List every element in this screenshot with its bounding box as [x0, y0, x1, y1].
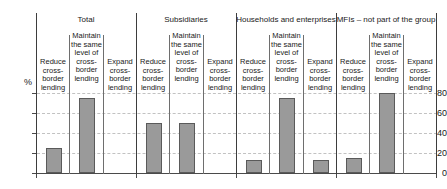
column-label-g0-maintain: Maintain the same level of cross-border …: [71, 32, 102, 83]
column-label-g3-expand: Expand cross-border lending: [405, 58, 435, 92]
column-label-g0-expand: Expand cross-border lending: [105, 58, 135, 92]
bar-mfis-maintain: [379, 93, 395, 173]
bar-total-maintain: [79, 98, 95, 173]
group-separator-2: [236, 13, 237, 174]
column-label-g1-maintain: Maintain the same level of cross-border …: [171, 32, 202, 83]
column-label-g3-reduce: Reduce cross-border lending: [338, 58, 368, 92]
bar-households-expand: [313, 160, 329, 173]
chart-container: % 80 60 40 20 0 Total Subsidiaries House…: [0, 0, 447, 189]
bar-households-maintain: [279, 98, 295, 173]
bar-total-reduce: [46, 148, 62, 173]
x-tick-0: [36, 174, 37, 178]
column-separator-g3-c2: [403, 35, 404, 174]
bar-households-reduce: [246, 160, 262, 173]
column-separator-g1-c2: [203, 35, 204, 174]
group-separator-1: [136, 13, 137, 174]
column-label-g1-expand: Expand cross-border lending: [205, 58, 235, 92]
bar-subsidiaries-reduce: [146, 123, 162, 173]
group-separator-3: [336, 13, 337, 174]
group-title-total: Total: [36, 15, 136, 24]
x-tick-2: [236, 174, 237, 178]
group-title-households-and-enterprises: Households and enterprises: [236, 15, 336, 24]
column-label-g0-reduce: Reduce cross-border lending: [38, 58, 68, 92]
group-separator-0: [36, 13, 37, 174]
column-label-g3-maintain: Maintain the same level of cross-border …: [371, 32, 402, 83]
plot-area: Total Subsidiaries Households and enterp…: [36, 13, 437, 174]
bar-subsidiaries-maintain: [179, 123, 195, 173]
group-title-mfis: MFIs – not part of the group: [336, 15, 436, 24]
bar-mfis-reduce: [346, 158, 362, 173]
column-separator-g0-c2: [103, 35, 104, 174]
column-label-g2-expand: Expand cross-border lending: [305, 58, 335, 92]
column-separator-g0-c1: [69, 35, 70, 174]
column-separator-g1-c1: [169, 35, 170, 174]
column-label-g1-reduce: Reduce cross-border lending: [138, 58, 168, 92]
x-tick-1: [136, 174, 137, 178]
x-tick-3: [336, 174, 337, 178]
column-separator-g2-c2: [303, 35, 304, 174]
group-separator-4: [436, 13, 437, 174]
y-axis-unit-label: %: [6, 78, 32, 87]
column-separator-g2-c1: [269, 35, 270, 174]
group-title-subsidiaries: Subsidiaries: [136, 15, 236, 24]
column-label-g2-maintain: Maintain the same level of cross-border …: [271, 32, 302, 83]
column-separator-g3-c1: [369, 35, 370, 174]
x-tick-4: [436, 174, 437, 178]
column-label-g2-reduce: Reduce cross-border lending: [238, 58, 268, 92]
